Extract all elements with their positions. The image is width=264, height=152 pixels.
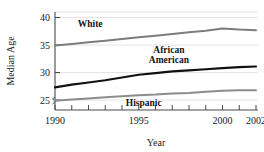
x-tick-label-2000: 2000 (213, 115, 233, 126)
y-axis-title: Median Age (5, 36, 16, 86)
chart-container: 25303540 1990199520002002 WhiteAfricanAm… (0, 0, 264, 152)
median-age-line-chart: 25303540 1990199520002002 WhiteAfricanAm… (0, 0, 264, 152)
x-axis-title: Year (147, 137, 166, 148)
x-tick-label-1990: 1990 (45, 115, 65, 126)
x-tick-label-2002: 2002 (246, 115, 264, 126)
y-tick-label-25: 25 (40, 95, 50, 106)
series-label-white: White (78, 19, 103, 29)
series-label-hispanic: Hispanic (126, 98, 162, 108)
y-tick-label-40: 40 (40, 12, 50, 23)
x-tick-label-1995: 1995 (129, 115, 149, 126)
series-label-african-american: AfricanAmerican (149, 45, 190, 65)
y-tick-label-35: 35 (40, 40, 50, 51)
y-tick-label-30: 30 (40, 67, 50, 78)
